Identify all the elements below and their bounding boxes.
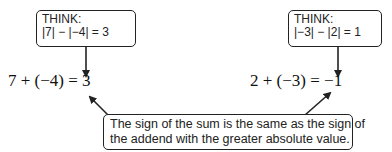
equation-right: 2 + (−3) = −1 <box>250 71 342 91</box>
arrow-rule-to-left <box>90 97 108 115</box>
think-box-left: THINK: |7| − |−4| = 3 <box>36 10 136 47</box>
equation-left: 7 + (−4) = 3 <box>8 71 91 91</box>
arrow-rule-to-right <box>305 93 330 115</box>
think-box-right: THINK: |−3| − |2| = 1 <box>288 10 382 47</box>
think-expression: |7| − |−4| = 3 <box>42 26 130 39</box>
rule-line-1: The sign of the sum is the same as the s… <box>110 117 346 132</box>
rule-box: The sign of the sum is the same as the s… <box>103 114 353 150</box>
think-expression: |−3| − |2| = 1 <box>294 26 376 39</box>
rule-line-2: the addend with the greater absolute val… <box>110 132 346 147</box>
